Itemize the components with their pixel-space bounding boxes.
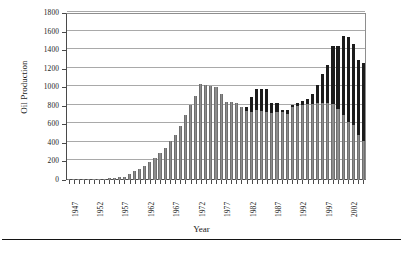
gridline-1800 [67,11,365,12]
bar-1977 [220,94,223,180]
bar-segment-lower-1975 [209,86,212,180]
bar-1995 [311,94,314,180]
bar-1987 [270,103,273,180]
x-tick-mark-1953 [99,180,100,184]
bar-1982 [245,107,248,180]
bar-segment-lower-1996 [316,103,319,180]
bar-segment-lower-2003 [352,125,355,180]
x-tick-mark-1969 [180,180,181,184]
bar-segment-lower-1965 [158,153,161,180]
bar-segment-lower-1995 [311,104,314,180]
x-tick-mark-1955 [109,180,110,184]
x-axis-title: Year [0,224,403,234]
y-tick-label-1000: 1000 [44,83,59,90]
x-tick-mark-1984 [257,180,258,184]
x-tick-mark-1952 [94,180,95,184]
x-tick-mark-1967 [170,180,171,184]
bar-segment-lower-1969 [179,126,182,180]
bar-segment-lower-2000 [336,109,339,180]
x-tick-mark-1986 [267,180,268,184]
x-tick-label-1982: 1982 [250,202,257,217]
bar-1993 [301,101,304,180]
x-tick-mark-1966 [165,180,166,184]
bar-1960 [133,171,136,180]
x-tick-mark-1951 [89,180,90,184]
bar-segment-lower-1997 [321,103,324,180]
x-tick-mark-1996 [318,180,319,184]
x-tick-mark-1963 [150,180,151,184]
bar-segment-lower-1976 [214,87,217,180]
x-tick-mark-2003 [353,180,354,184]
bar-segment-lower-2001 [342,115,345,180]
y-tick-label-800: 800 [48,102,59,109]
bar-1969 [179,126,182,180]
x-tick-mark-1971 [191,180,192,184]
x-tick-mark-1989 [282,180,283,184]
bar-segment-lower-1961 [138,169,141,180]
bar-1985 [260,89,263,180]
bar-2003 [352,44,355,180]
y-tick-label-200: 200 [48,157,59,164]
bar-1980 [235,103,238,180]
bar-1997 [321,74,324,180]
x-tick-mark-1958 [124,180,125,184]
bar-segment-lower-1979 [230,102,233,180]
x-tick-mark-1993 [302,180,303,184]
x-tick-mark-1972 [196,180,197,184]
x-tick-mark-1987 [272,180,273,184]
x-tick-mark-1959 [130,180,131,184]
x-tick-mark-1965 [160,180,161,184]
bar-1990 [286,110,289,180]
x-tick-mark-1974 [206,180,207,184]
bar-2004 [357,60,360,180]
bar-1974 [204,85,207,180]
figure: Oil Production 0200400600800100012001400… [0,0,403,255]
bar-1972 [194,96,197,180]
x-tick-mark-1995 [313,180,314,184]
bar-segment-lower-1967 [169,141,172,180]
x-tick-mark-1948 [74,180,75,184]
x-tick-mark-2000 [338,180,339,184]
x-tick-mark-1985 [262,180,263,184]
bar-segment-lower-1990 [286,114,289,180]
bar-1984 [255,89,258,180]
y-tick-label-1600: 1600 [44,28,59,35]
bar-2001 [342,36,345,180]
x-tick-mark-1961 [140,180,141,184]
x-tick-mark-1992 [297,180,298,184]
bar-1999 [331,46,334,180]
x-tick-mark-1954 [104,180,105,184]
bar-segment-lower-1989 [281,112,284,180]
bar-1962 [143,166,146,180]
bar-segment-lower-1985 [260,111,263,180]
x-tick-mark-1962 [145,180,146,184]
bar-segment-lower-1960 [133,171,136,180]
x-tick-mark-1994 [308,180,309,184]
bar-1983 [250,97,253,180]
bar-1961 [138,169,141,180]
bar-segment-lower-1982 [245,111,248,180]
bar-segment-lower-1980 [235,103,238,180]
y-tick-label-400: 400 [48,139,59,146]
bar-segment-lower-1993 [301,105,304,180]
y-tick-label-600: 600 [48,120,59,127]
x-tick-label-1967: 1967 [173,202,180,217]
y-tick-label-1200: 1200 [44,65,59,72]
bar-segment-lower-1988 [275,112,278,180]
x-tick-label-1987: 1987 [275,202,282,217]
bar-1975 [209,86,212,180]
bar-1989 [281,110,284,180]
x-tick-mark-1970 [185,180,186,184]
x-tick-label-1992: 1992 [300,202,307,217]
bar-1968 [174,135,177,180]
bar-segment-lower-2002 [347,122,350,180]
x-tick-label-1972: 1972 [199,202,206,217]
bar-1967 [169,141,172,180]
x-tick-label-1952: 1952 [97,202,104,217]
bar-segment-lower-1991 [291,107,294,180]
x-axis-tick-labels: 1947195219571962196719721977198219871992… [66,185,366,219]
bar-segment-lower-1970 [184,115,187,180]
y-tick-label-1800: 1800 [44,9,59,16]
bar-segment-lower-1981 [240,107,243,180]
bar-1981 [240,107,243,180]
